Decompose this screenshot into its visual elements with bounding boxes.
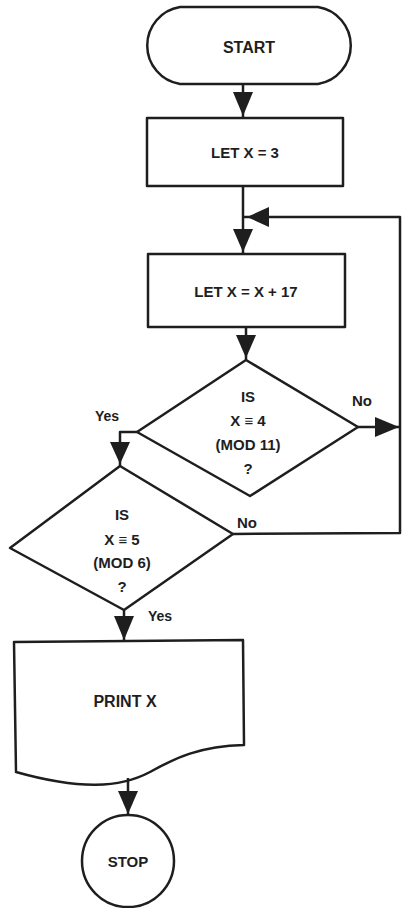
arrowhead-down-icon [233,92,253,116]
start-label: START [223,39,275,56]
arrowhead-left-icon [247,207,269,227]
check2-no-label: No [237,514,257,531]
check1-yes-label: Yes [95,408,119,424]
check2-line-4: ? [117,578,126,595]
print-document-shape [14,640,244,785]
check2-line-3: (MOD 6) [93,554,151,571]
check1-line-3: (MOD 11) [215,436,280,453]
arrowhead-down-icon [236,335,256,358]
check1-line-4: ? [243,460,252,477]
increment-label: LET X = X + 17 [194,283,297,300]
stop-label: STOP [108,853,149,870]
check2-yes-label: Yes [148,608,172,624]
arrowhead-down-icon [114,616,134,640]
check1-line-1: IS [241,388,255,405]
init-label: LET X = 3 [211,144,279,161]
arrowhead-right-icon [375,417,399,437]
check2-line-2: X ≡ 5 [104,531,139,548]
check1-line-2: X ≡ 4 [230,412,266,429]
check2-line-1: IS [115,506,129,523]
flowchart-canvas: START LET X = 3 LET X = X + 17 IS X ≡ 4 … [0,0,408,908]
check1-no-label: No [352,392,372,409]
edge-loop-back [233,217,400,534]
arrowhead-down-icon [110,442,130,464]
arrowhead-down-icon [118,791,138,814]
print-label: PRINT X [93,693,156,710]
arrowhead-down-icon [233,229,253,252]
